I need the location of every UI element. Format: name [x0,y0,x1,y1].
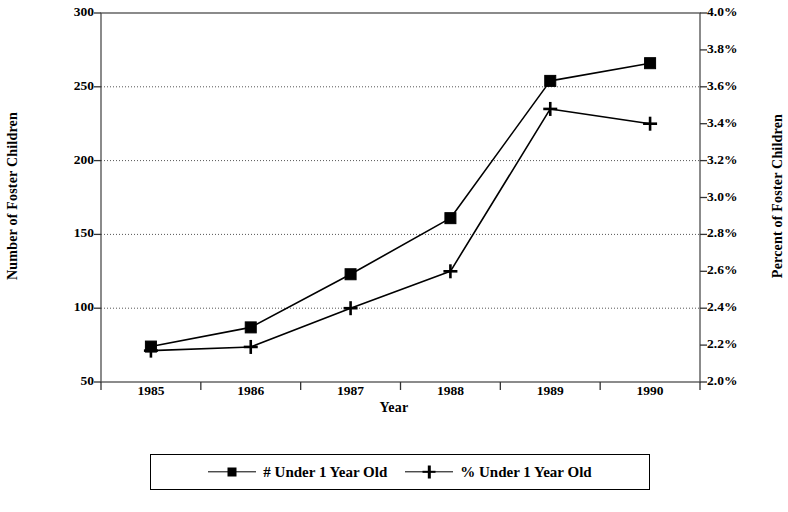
x-axis-tick-label: 1985 [137,383,164,399]
y-axis-left-title: Number of Foster Children [5,16,21,376]
x-axis-tick-label: 1987 [337,383,364,399]
chart-legend: # Under 1 Year Old % Under 1 Year Old [150,454,650,490]
x-axis-title: Year [0,400,788,416]
x-axis-tick-label: 1989 [537,383,564,399]
legend-entry-percent: % Under 1 Year Old [396,464,600,481]
legend-label-number: # Under 1 Year Old [263,464,387,481]
legend-entry-number: # Under 1 Year Old [199,464,396,481]
x-axis-ticks: 198519861987198819891990 [0,0,788,400]
x-axis-tick-label: 1986 [237,383,264,399]
chart-figure: 50100150200250300 2.0%2.2%2.4%2.6%2.8%3.… [0,0,788,512]
x-axis-tick-label: 1990 [637,383,664,399]
legend-label-percent: % Under 1 Year Old [460,464,591,481]
x-axis-tick-label: 1988 [437,383,464,399]
square-marker-icon [208,464,256,480]
plus-marker-icon [405,464,453,480]
y-axis-right-title: Percent of Foster Children [770,16,786,376]
